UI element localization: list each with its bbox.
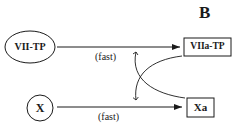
feedback-viia-to-x-reaction <box>136 56 182 100</box>
feedback-xa-to-vii-reaction <box>135 52 185 98</box>
top-rate-label: (fast) <box>95 51 116 62</box>
xa-label: Xa <box>187 101 214 113</box>
panel-label: B <box>199 3 210 23</box>
x-label: X <box>27 101 53 116</box>
bottom-rate-label: (fast) <box>98 111 119 122</box>
viia-tp-label: VIIa-TP <box>184 41 231 51</box>
vii-tp-label: VII-TP <box>5 41 55 52</box>
